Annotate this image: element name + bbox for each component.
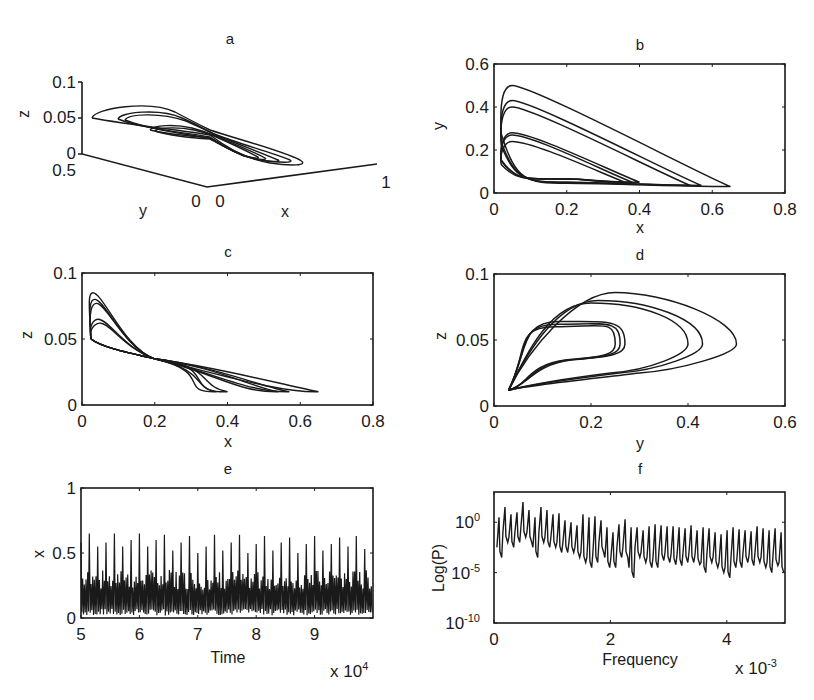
y-tick-label: 1 (67, 479, 76, 498)
panel-f-spectrum (497, 502, 784, 578)
panel-f-ticks: 02410-1010-5100 (445, 492, 785, 649)
x-tick-label: 0.6 (773, 413, 797, 432)
panel-c: c 00.20.40.60.800.050.1 z x (18, 243, 385, 450)
y-tick-label: 0.4 (465, 98, 489, 117)
panel-a-xtick-0: 0 (215, 192, 224, 211)
y-tick-label: 100 (455, 511, 480, 532)
y-tick-label: 0 (480, 397, 489, 416)
panel-f-title: f (638, 460, 643, 477)
panel-a-trajectory (92, 106, 303, 165)
panel-a: a 0.1 0.05 0 z 0.5 0 y 0 1 x (15, 30, 391, 220)
panel-c-ticks: 00.20.40.60.800.050.1 (44, 264, 385, 431)
panel-e-timeseries (81, 534, 372, 616)
x-tick-label: 0.4 (216, 412, 240, 431)
x-tick-label: 4 (722, 630, 731, 649)
panel-a-ylabel: y (139, 202, 147, 219)
panel-b-xlabel: x (636, 219, 644, 236)
x-tick-label: 6 (135, 625, 144, 644)
x-tick-label: 0 (77, 412, 86, 431)
panel-c-ylabel: z (18, 331, 35, 339)
y-tick-label: 0.05 (456, 331, 489, 350)
panel-b-trajectory (501, 86, 731, 187)
panel-e-ylabel: x (30, 550, 47, 558)
panel-e-title: e (224, 460, 232, 477)
panel-f-ylabel: Log(P) (430, 544, 447, 592)
y-tick-label: 0 (67, 609, 76, 628)
x-tick-label: 0.2 (579, 413, 603, 432)
panel-f-xlabel: Frequency (602, 651, 678, 668)
attractor-loop (501, 141, 625, 182)
panel-c-trajectory (89, 293, 318, 392)
y-tick-label: 0 (68, 396, 77, 415)
y-tick-label: 0 (480, 184, 489, 203)
panel-b-ylabel: y (430, 122, 447, 130)
x-timeseries (81, 534, 372, 616)
panel-f-x-multiplier: x 10-3 (735, 657, 777, 678)
panel-a-axes (78, 82, 377, 187)
panel-d-xlabel: y (636, 435, 644, 452)
x-tick-label: 0.8 (773, 200, 797, 219)
y-tick-label: 0.1 (465, 265, 489, 284)
panel-b-ticks: 00.20.40.60.800.20.40.6 (465, 55, 796, 219)
panel-a-ztick-0.1: 0.1 (52, 73, 76, 92)
x-tick-label: 0.4 (676, 413, 700, 432)
y-tick-label: 0.6 (465, 55, 489, 74)
x-tick-label: 8 (251, 625, 260, 644)
y-tick-label: 0.5 (52, 544, 76, 563)
x-tick-label: 0.2 (143, 412, 167, 431)
panel-a-xlabel: x (281, 203, 289, 220)
panel-a-ytick-0: 0 (191, 192, 200, 211)
figure-canvas: a 0.1 0.05 0 z 0.5 0 y 0 1 x b 00.20.40.… (0, 0, 814, 700)
y-tick-label: 10-5 (451, 562, 480, 583)
panel-c-xlabel: x (224, 433, 232, 450)
panel-e-ticks: 5678900.51 (52, 479, 373, 644)
panel-e: e 5678900.51 x Time x 104 (30, 460, 373, 681)
x-tick-label: 2 (606, 630, 615, 649)
y-tick-label: 0.1 (53, 264, 77, 283)
x-tick-label: 0.4 (628, 200, 652, 219)
panel-d-title: d (636, 246, 644, 263)
panel-b-axes-box (494, 64, 785, 193)
attractor-loop (90, 323, 216, 392)
x-tick-label: 0.8 (361, 412, 385, 431)
x-tick-label: 0 (489, 413, 498, 432)
x-tick-label: 0.6 (700, 200, 724, 219)
y-tick-label: 10-10 (445, 612, 480, 633)
x-tick-label: 0 (489, 200, 498, 219)
x-tick-label: 9 (310, 625, 319, 644)
panel-c-axes-box (82, 273, 373, 405)
panel-a-zlabel: z (15, 110, 32, 118)
panel-a-ytick-0.5: 0.5 (52, 161, 76, 180)
attractor-loop (501, 107, 691, 185)
panel-b: b 00.20.40.60.800.20.40.6 y x (430, 36, 797, 236)
attractor-loop (90, 303, 278, 391)
panel-a-title: a (226, 30, 235, 47)
panel-a-ztick-0.05: 0.05 (43, 108, 76, 127)
x-tick-label: 5 (76, 625, 85, 644)
x-tick-label: 0.2 (555, 200, 579, 219)
y-tick-label: 0.2 (465, 141, 489, 160)
panel-d: d 00.20.40.600.050.1 z y (432, 246, 797, 452)
panel-e-x-multiplier: x 104 (330, 660, 368, 681)
panel-e-xlabel: Time (211, 649, 246, 666)
panel-a-xtick-1: 1 (381, 173, 390, 192)
panel-f: f 02410-1010-5100 Log(P) Frequency x 10-… (430, 460, 785, 678)
panel-d-trajectory (509, 292, 737, 390)
panel-d-ylabel: z (432, 332, 449, 340)
panel-c-title: c (224, 243, 232, 260)
panel-d-ticks: 00.20.40.600.050.1 (456, 265, 797, 432)
power-spectrum (497, 502, 784, 578)
x-tick-label: 0 (489, 630, 498, 649)
x-tick-label: 0.6 (288, 412, 312, 431)
y-tick-label: 0.05 (44, 330, 77, 349)
x-tick-label: 7 (193, 625, 202, 644)
panel-a-3d-axes (82, 82, 377, 187)
panel-b-title: b (636, 36, 644, 53)
